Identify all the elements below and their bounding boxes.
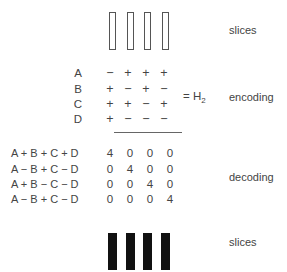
encoding-cell: − xyxy=(121,112,135,126)
encoding-row-label: C xyxy=(62,98,82,110)
slice-outline-3 xyxy=(144,12,151,50)
encoding-cell: + xyxy=(103,112,117,126)
divider-line xyxy=(114,132,182,133)
decoding-cell: 0 xyxy=(124,178,136,190)
encoding-cell: − xyxy=(139,112,153,126)
decoding-cell: 0 xyxy=(164,178,176,190)
decoding-cell: 0 xyxy=(164,163,176,175)
decoding-label: decoding xyxy=(229,171,274,183)
decoding-cell: 0 xyxy=(164,147,176,159)
encoding-cell: − xyxy=(157,82,171,96)
decoding-cell: 0 xyxy=(104,163,116,175)
encoding-cell: + xyxy=(157,66,171,80)
encoding-cell: + xyxy=(139,66,153,80)
slice-outline-1 xyxy=(109,12,116,50)
encoding-row-label: D xyxy=(62,113,82,125)
decoding-cell: 0 xyxy=(124,193,136,205)
decoding-row-label: A − B + C − D xyxy=(11,193,79,205)
slice-solid-3 xyxy=(143,233,152,270)
decoding-row-label: A − B + C − D xyxy=(11,163,79,175)
encoding-row-label: B xyxy=(62,83,82,95)
encoding-cell: + xyxy=(121,97,135,111)
encoding-cell: − xyxy=(139,97,153,111)
decoding-cell: 0 xyxy=(124,147,136,159)
decoding-cell: 4 xyxy=(104,147,116,159)
encoding-cell: + xyxy=(103,97,117,111)
encoding-row-label: A xyxy=(62,67,82,79)
encoding-cell: − xyxy=(103,66,117,80)
encoding-cell: + xyxy=(157,97,171,111)
equals-h: = H xyxy=(183,90,201,102)
decoding-cell: 0 xyxy=(144,193,156,205)
decoding-cell: 0 xyxy=(144,147,156,159)
slice-solid-4 xyxy=(161,233,170,270)
slice-solid-2 xyxy=(126,233,135,270)
encoding-label: encoding xyxy=(229,91,274,103)
h-subscript: 2 xyxy=(201,96,205,105)
decoding-cell: 4 xyxy=(164,193,176,205)
slice-solid-1 xyxy=(108,233,117,270)
decoding-cell: 0 xyxy=(144,163,156,175)
decoding-row-label: A + B + C + D xyxy=(11,147,79,159)
slice-outline-2 xyxy=(127,12,134,50)
top-slices-label: slices xyxy=(229,24,257,36)
decoding-row-label: A + B − C − D xyxy=(11,178,79,190)
encoding-cell: + xyxy=(103,82,117,96)
hadamard-equation: = H2 xyxy=(183,90,206,105)
encoding-cell: − xyxy=(121,82,135,96)
decoding-cell: 0 xyxy=(104,193,116,205)
decoding-cell: 4 xyxy=(124,163,136,175)
decoding-cell: 4 xyxy=(144,178,156,190)
encoding-cell: + xyxy=(139,82,153,96)
slice-outline-4 xyxy=(162,12,169,50)
decoding-cell: 0 xyxy=(104,178,116,190)
encoding-cell: + xyxy=(121,66,135,80)
encoding-cell: − xyxy=(157,112,171,126)
bottom-slices-label: slices xyxy=(229,236,257,248)
